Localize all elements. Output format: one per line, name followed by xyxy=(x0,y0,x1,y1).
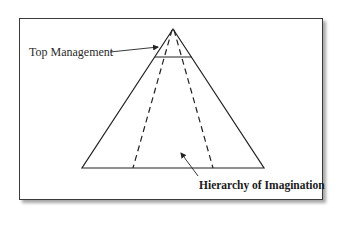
dashed-line-right xyxy=(174,30,213,168)
top-management-arrow xyxy=(110,47,158,52)
top-management-label: Top Management xyxy=(29,45,113,60)
hierarchy-of-imagination-label: Hierarchy of Imagination xyxy=(199,179,325,191)
dashed-line-left xyxy=(133,30,172,168)
hierarchy-arrow xyxy=(181,153,198,176)
